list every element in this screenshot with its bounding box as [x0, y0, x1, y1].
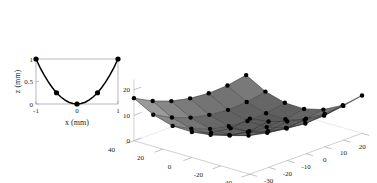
- y-tick-label: -20: [283, 170, 293, 178]
- x-tick-label: 20: [137, 154, 145, 162]
- x-tick-label: 40: [108, 146, 116, 154]
- surface-data-point: [266, 119, 270, 123]
- plot-2d-xtick-2: 1: [116, 107, 120, 115]
- data-point: [33, 56, 38, 61]
- surface-data-point: [188, 115, 192, 119]
- surface-data-point: [265, 125, 269, 129]
- z-tick-label: 20: [123, 86, 131, 94]
- plot-2d-ytick-1: 0.5: [24, 78, 33, 86]
- plot-2d-xlabel: x (mm): [65, 118, 89, 127]
- data-point: [115, 56, 120, 61]
- surface-data-point: [265, 131, 269, 135]
- surface-data-point: [188, 96, 192, 100]
- z-tick-label: 10: [123, 112, 131, 120]
- surface-data-point: [150, 99, 154, 103]
- x-tick-label: -40: [223, 179, 233, 183]
- surface-data-point: [208, 133, 212, 137]
- y-tick-mark: [287, 161, 294, 163]
- y-tick-label: 10: [340, 149, 348, 157]
- surface-data-point: [246, 130, 250, 134]
- surface-data-point: [341, 103, 345, 107]
- surface-data-point: [264, 111, 268, 115]
- plot-2d-markers: [33, 56, 120, 106]
- surface-data-point: [170, 115, 174, 119]
- plot-3d-svg: 40200-20-40-30-20-10010203001020: [150, 0, 377, 183]
- plot-3d-surface: [134, 75, 362, 136]
- surface-data-point: [151, 112, 155, 116]
- surface-data-point: [245, 100, 249, 104]
- plot-2d-ylabel: z (mm): [13, 70, 22, 94]
- x-tick-mark: [241, 174, 249, 177]
- y-tick-label: 20: [359, 143, 367, 151]
- surface-data-point: [208, 127, 212, 131]
- x-tick-mark: [155, 149, 163, 152]
- y-tick-mark: [362, 133, 369, 135]
- surface-data-point: [245, 119, 249, 123]
- surface-data-point: [263, 89, 267, 93]
- y-tick-mark: [250, 174, 257, 176]
- parabola-fit-line: [36, 59, 118, 104]
- y-tick-mark: [325, 147, 332, 149]
- surface-data-point: [227, 133, 231, 137]
- surface-data-point: [207, 91, 211, 95]
- y-tick-label: -30: [264, 177, 274, 183]
- y-tick-label: -10: [301, 163, 311, 171]
- plot-3d-paraboloid: 40200-20-40-30-20-10010203001020: [150, 0, 377, 183]
- surface-data-point: [302, 118, 306, 122]
- surface-data-point: [227, 124, 231, 128]
- plot-2d-curve: [36, 59, 118, 104]
- surface-data-point: [170, 124, 174, 128]
- x-tick-mark: [212, 166, 220, 169]
- surface-data-point: [132, 96, 136, 100]
- data-point: [54, 90, 59, 95]
- surface-data-point: [244, 73, 248, 77]
- surface-data-point: [302, 107, 306, 111]
- y-tick-label: 0: [323, 156, 327, 164]
- surface-data-point: [283, 101, 287, 105]
- surface-data-point: [322, 113, 326, 117]
- y-tick-mark: [306, 154, 313, 156]
- surface-data-point: [226, 108, 230, 112]
- surface-data-point: [189, 127, 193, 131]
- x-tick-label: -20: [194, 171, 204, 179]
- x-tick-label: 0: [168, 163, 172, 171]
- data-point: [95, 90, 100, 95]
- z-tick-label: 0: [127, 137, 131, 145]
- surface-data-point: [321, 107, 325, 111]
- figure-canvas: 0 0.5 1 -1 0 1 x (mm) z (mm): [0, 0, 377, 183]
- surface-data-point: [169, 99, 173, 103]
- y-tick-mark: [269, 167, 276, 169]
- surface-data-point: [207, 113, 211, 117]
- x-tick-mark: [183, 157, 191, 160]
- surface-data-point: [283, 117, 287, 121]
- surface-data-point: [360, 93, 364, 97]
- surface-data-point: [225, 83, 229, 87]
- y-tick-mark: [343, 140, 350, 142]
- data-point: [74, 101, 79, 106]
- plot-2d-xtick-1: 0: [75, 107, 79, 115]
- plot-2d-ytick-2: 1: [30, 56, 34, 64]
- surface-data-point: [284, 126, 288, 130]
- plot-2d-xtick-0: -1: [33, 107, 39, 115]
